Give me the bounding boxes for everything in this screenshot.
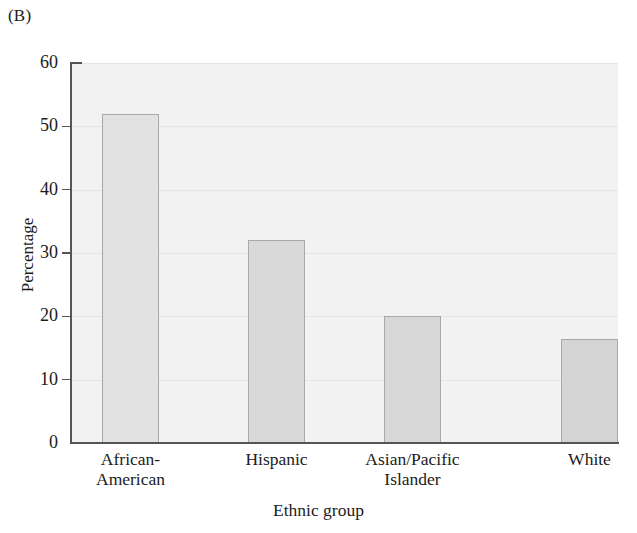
y-axis-tick-label: 30: [0, 243, 58, 261]
y-axis-tick-label: 60: [0, 53, 58, 71]
y-axis-tick-label: 40: [0, 180, 58, 198]
x-axis-tick-label: Asian/PacificIslander: [333, 449, 493, 489]
gridline: [71, 63, 618, 64]
y-axis-tick-label: 10: [0, 370, 58, 388]
bar: [102, 114, 159, 443]
x-axis-tick-label-line: White: [510, 449, 637, 469]
x-axis-tick-label-line: Islander: [333, 469, 493, 489]
x-axis-title: Ethnic group: [0, 500, 637, 521]
y-axis-line: [70, 62, 72, 444]
bar: [248, 240, 305, 443]
bar: [384, 316, 441, 443]
y-axis-top-cap: [70, 62, 82, 64]
y-axis-tick-label: 0: [0, 433, 58, 451]
x-axis-tick-label-line: Asian/Pacific: [333, 449, 493, 469]
y-axis-tick-label: 50: [0, 116, 58, 134]
x-axis-line: [70, 442, 619, 444]
y-axis-tick-label: 20: [0, 306, 58, 324]
x-axis-tick-label-line: American: [51, 469, 211, 489]
x-axis-tick-label: African-American: [51, 449, 211, 489]
bar: [561, 339, 618, 444]
x-axis-tick-label: White: [510, 449, 637, 469]
x-axis-tick-label-line: African-: [51, 449, 211, 469]
